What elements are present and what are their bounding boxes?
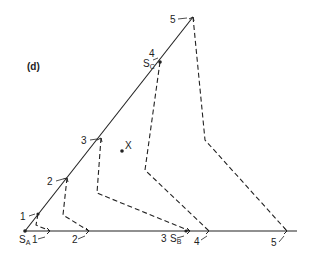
point-x-label: X <box>125 140 132 151</box>
diag-label-4: 4 <box>149 48 155 59</box>
diag-label-5: 5 <box>170 14 176 25</box>
dashed-path-3 <box>97 138 190 231</box>
panel-label: (d) <box>27 61 40 72</box>
diag-label-3: 3 <box>81 135 87 146</box>
diag-point-1-dot <box>36 212 39 215</box>
horiz-label-1: 1 <box>32 234 38 245</box>
source-b-label: SB <box>170 233 182 245</box>
source-a-label: SA <box>19 234 31 246</box>
source-c-dot <box>158 60 162 64</box>
dashed-path-4 <box>145 62 209 231</box>
diag-label-2: 2 <box>47 176 53 187</box>
dashed-path-2 <box>63 178 89 231</box>
diagonal-ray <box>25 17 193 231</box>
wavefront-diagram: (d) <box>0 0 314 260</box>
source-b-dot <box>184 229 187 232</box>
horiz-label-3: 3 <box>161 233 167 244</box>
dashed-path-5 <box>193 17 287 231</box>
point-x-dot <box>120 149 124 153</box>
source-a-dot <box>23 229 27 233</box>
horiz-label-5: 5 <box>271 237 277 248</box>
horiz-label-4: 4 <box>194 236 200 247</box>
horiz-label-2: 2 <box>72 234 78 245</box>
diag-label-1: 1 <box>20 211 26 222</box>
